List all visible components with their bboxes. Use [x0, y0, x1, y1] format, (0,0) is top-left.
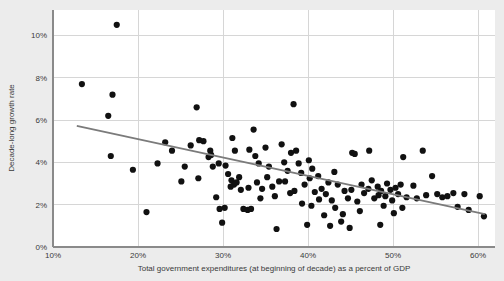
- data-point: [316, 196, 322, 202]
- y-tick-label: 4%: [35, 158, 47, 167]
- data-point: [331, 169, 337, 175]
- data-point: [429, 173, 435, 179]
- data-point: [341, 188, 347, 194]
- data-point: [384, 180, 390, 186]
- x-tick-label: 40%: [300, 251, 316, 260]
- data-point: [444, 193, 450, 199]
- data-point: [246, 147, 252, 153]
- data-point: [319, 186, 325, 192]
- data-point: [282, 178, 288, 184]
- data-point: [105, 113, 111, 119]
- data-point: [281, 159, 287, 165]
- data-point: [321, 212, 327, 218]
- data-point: [377, 222, 383, 228]
- data-point: [299, 201, 305, 207]
- x-axis-title: Total government expenditures (at beginn…: [138, 264, 411, 273]
- data-point: [352, 151, 358, 157]
- data-point: [389, 197, 395, 203]
- data-point: [269, 184, 275, 190]
- data-point: [309, 166, 315, 172]
- data-point: [216, 160, 222, 166]
- data-point: [143, 209, 149, 215]
- data-point: [182, 163, 188, 169]
- data-point: [327, 223, 333, 229]
- data-point: [312, 189, 318, 195]
- data-point: [290, 101, 296, 107]
- x-tick-label: 60%: [470, 251, 486, 260]
- data-point: [229, 135, 235, 141]
- y-tick-label: 10%: [31, 31, 47, 40]
- data-point: [329, 197, 335, 203]
- chart-canvas: 0%2%4%6%8%10%10%20%30%40%50%60% Total go…: [0, 0, 504, 281]
- data-point: [188, 142, 194, 148]
- data-point: [400, 154, 406, 160]
- data-point: [195, 175, 201, 181]
- y-tick-label: 2%: [35, 201, 47, 210]
- data-point: [304, 222, 310, 228]
- data-point: [461, 191, 467, 197]
- data-point: [450, 190, 456, 196]
- data-point: [228, 184, 234, 190]
- data-point: [264, 174, 270, 180]
- data-point: [323, 191, 329, 197]
- data-point: [338, 219, 344, 225]
- data-point: [248, 206, 254, 212]
- data-point: [213, 194, 219, 200]
- data-point: [272, 193, 278, 199]
- data-point: [423, 192, 429, 198]
- data-point: [225, 171, 231, 177]
- plot-area-background: [53, 10, 495, 247]
- x-tick-label: 50%: [385, 251, 401, 260]
- data-point: [222, 205, 228, 211]
- y-axis-title: Decade-long growth rate: [7, 84, 16, 172]
- data-point: [420, 148, 426, 154]
- data-point: [439, 194, 445, 200]
- data-point: [252, 153, 258, 159]
- data-point: [130, 167, 136, 173]
- data-point: [369, 177, 375, 183]
- data-point: [291, 188, 297, 194]
- x-tick-label: 10%: [45, 251, 61, 260]
- data-point: [347, 225, 353, 231]
- data-point: [109, 92, 115, 98]
- data-point: [114, 22, 120, 28]
- data-point: [306, 157, 312, 163]
- data-point: [219, 220, 225, 226]
- data-point: [348, 187, 354, 193]
- data-point: [232, 148, 238, 154]
- data-point: [257, 195, 263, 201]
- data-point: [302, 181, 308, 187]
- x-tick-label: 20%: [130, 251, 146, 260]
- data-point: [366, 148, 372, 154]
- data-point: [210, 163, 216, 169]
- data-point: [245, 185, 251, 191]
- data-point: [296, 160, 302, 166]
- data-point: [238, 187, 244, 193]
- data-point: [236, 174, 242, 180]
- x-tick-label: 30%: [215, 251, 231, 260]
- data-point: [251, 126, 257, 132]
- data-point: [357, 208, 363, 214]
- data-point: [200, 138, 206, 144]
- data-point: [477, 193, 483, 199]
- data-point: [354, 198, 360, 204]
- data-point: [293, 148, 299, 154]
- y-tick-label: 6%: [35, 116, 47, 125]
- data-point: [276, 178, 282, 184]
- data-point: [398, 181, 404, 187]
- data-point: [345, 195, 351, 201]
- data-point: [169, 148, 175, 154]
- data-point: [254, 179, 260, 185]
- data-point: [279, 141, 285, 147]
- data-point: [273, 226, 279, 232]
- data-point: [399, 205, 405, 211]
- data-point: [178, 178, 184, 184]
- data-point: [308, 203, 314, 209]
- data-point: [194, 104, 200, 110]
- data-point: [259, 186, 265, 192]
- data-point: [108, 153, 114, 159]
- data-point: [391, 210, 397, 216]
- data-point: [217, 206, 223, 212]
- data-point: [332, 205, 338, 211]
- data-point: [410, 183, 416, 189]
